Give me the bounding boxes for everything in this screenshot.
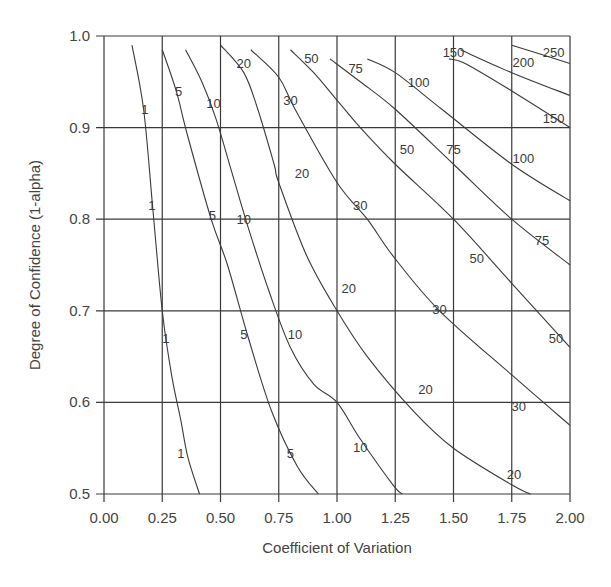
y-tick-label: 0.9 <box>69 119 90 136</box>
contour-label-1: 1 <box>162 331 169 346</box>
contour-line-20 <box>221 45 531 494</box>
contour-label-100: 100 <box>408 75 430 90</box>
contour-curves <box>132 45 570 494</box>
contour-line-5 <box>162 50 318 494</box>
contour-label-10: 10 <box>353 440 367 455</box>
x-tick-label: 0.75 <box>264 509 293 526</box>
contour-label-20: 20 <box>295 166 309 181</box>
contour-label-5: 5 <box>175 84 182 99</box>
contour-label-50: 50 <box>470 251 484 266</box>
contour-label-50: 50 <box>304 51 318 66</box>
x-tick-label: 2.00 <box>555 509 584 526</box>
contour-label-250: 250 <box>543 45 565 60</box>
x-tick-label: 1.75 <box>497 509 526 526</box>
contour-label-100: 100 <box>513 151 535 166</box>
x-tick-label: 0.25 <box>148 509 177 526</box>
contour-label-75: 75 <box>348 61 362 76</box>
contour-label-30: 30 <box>432 302 446 317</box>
contour-label-200: 200 <box>513 55 535 70</box>
contour-label-1: 1 <box>177 446 184 461</box>
contour-label-75: 75 <box>446 142 460 157</box>
contour-label-20: 20 <box>341 281 355 296</box>
x-axis-title: Coefficient of Variation <box>262 539 412 556</box>
x-tick-label: 1.50 <box>439 509 468 526</box>
y-axis-ticks: 0.50.60.70.80.91.0 <box>69 27 90 502</box>
x-tick-label: 1.25 <box>381 509 410 526</box>
contour-label-150: 150 <box>543 111 565 126</box>
contour-label-20: 20 <box>418 382 432 397</box>
contour-label-30: 30 <box>283 93 297 108</box>
contour-chart: 1111555510101010202020202030303030505050… <box>0 0 611 587</box>
contour-label-20: 20 <box>237 56 251 71</box>
contour-label-1: 1 <box>148 198 155 213</box>
contour-label-5: 5 <box>209 208 216 223</box>
contour-label-10: 10 <box>206 96 220 111</box>
contour-labels: 1111555510101010202020202030303030505050… <box>141 45 564 481</box>
contour-label-5: 5 <box>240 327 247 342</box>
x-tick-label: 1.00 <box>322 509 351 526</box>
contour-line-10 <box>186 50 403 494</box>
y-tick-label: 0.5 <box>69 485 90 502</box>
x-axis-ticks: 0.000.250.500.751.001.251.501.752.00 <box>89 509 584 526</box>
contour-line-100 <box>367 59 570 201</box>
contour-label-50: 50 <box>400 142 414 157</box>
contour-label-1: 1 <box>141 102 148 117</box>
x-tick-label: 0.00 <box>89 509 118 526</box>
y-tick-label: 1.0 <box>69 27 90 44</box>
contour-label-150: 150 <box>443 45 465 60</box>
y-tick-label: 0.7 <box>69 302 90 319</box>
y-axis-title: Degree of Confidence (1-alpha) <box>26 160 43 370</box>
contour-label-5: 5 <box>287 446 294 461</box>
y-tick-label: 0.8 <box>69 210 90 227</box>
contour-label-30: 30 <box>512 399 526 414</box>
y-tick-label: 0.6 <box>69 393 90 410</box>
contour-label-10: 10 <box>237 212 251 227</box>
contour-label-20: 20 <box>507 467 521 482</box>
x-tick-label: 0.50 <box>206 509 235 526</box>
contour-label-50: 50 <box>549 331 563 346</box>
contour-label-10: 10 <box>288 327 302 342</box>
contour-label-75: 75 <box>535 233 549 248</box>
contour-label-30: 30 <box>353 198 367 213</box>
